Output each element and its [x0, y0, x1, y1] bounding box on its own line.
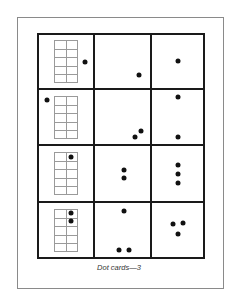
column-divider: [150, 33, 152, 259]
dot: [176, 59, 181, 64]
dot: [117, 248, 122, 253]
figure-caption: Dot cards—3: [0, 263, 238, 272]
ten-frame-grid: [54, 209, 78, 252]
dot: [122, 209, 127, 214]
ten-frame-grid: [54, 96, 78, 139]
dot: [45, 98, 50, 103]
dot: [176, 135, 181, 140]
row-divider: [37, 88, 205, 90]
dot: [176, 172, 181, 177]
dot: [83, 60, 88, 65]
row-divider: [37, 144, 205, 146]
dot: [127, 248, 132, 253]
dot: [181, 221, 186, 226]
dot: [171, 222, 176, 227]
dot: [137, 73, 142, 78]
dot: [122, 168, 127, 173]
dot: [122, 176, 127, 181]
dot: [69, 219, 74, 224]
column-divider: [93, 33, 95, 259]
dot: [133, 135, 138, 140]
dot: [176, 163, 181, 168]
ten-frame-grid: [54, 40, 78, 83]
dot: [176, 181, 181, 186]
dot: [69, 155, 74, 160]
dot: [69, 211, 74, 216]
row-divider: [37, 201, 205, 203]
dot: [176, 232, 181, 237]
ten-frame-grid: [54, 152, 78, 195]
dot: [139, 129, 144, 134]
dot: [176, 95, 181, 100]
